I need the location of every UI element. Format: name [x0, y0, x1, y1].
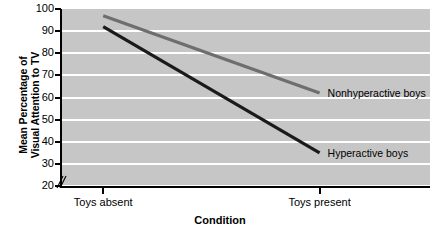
y-axis-tick-label: 80 — [28, 47, 54, 58]
y-axis-tick-label: 100 — [28, 3, 54, 14]
y-axis-tick-label: 70 — [28, 69, 54, 80]
x-axis-title: Condition — [0, 214, 440, 226]
series-label-hyperactive: Hyperactive boys — [328, 147, 409, 159]
x-axis-tick-mark — [102, 188, 104, 194]
y-axis-tick-label: 20 — [28, 180, 54, 191]
y-axis-line — [60, 9, 62, 186]
y-axis-tick-label: 90 — [28, 25, 54, 36]
series-label-nonhyperactive: Nonhyperactive boys — [328, 87, 426, 99]
x-axis-tick-label: Toys absent — [74, 196, 133, 208]
x-axis-line — [60, 186, 430, 188]
y-axis-tick-label: 40 — [28, 136, 54, 147]
y-axis-tick-label: 50 — [28, 114, 54, 125]
axis-break-icon — [55, 174, 67, 190]
series-line-hyperactive — [103, 27, 319, 153]
line-chart: Mean Percentage of Visual Attention to T… — [0, 0, 440, 240]
series-line-nonhyperactive — [103, 16, 319, 93]
x-axis-tick-mark — [319, 188, 321, 194]
y-axis-tick-label: 60 — [28, 92, 54, 103]
y-axis-tick-label: 30 — [28, 158, 54, 169]
x-axis-tick-label: Toys present — [288, 196, 350, 208]
